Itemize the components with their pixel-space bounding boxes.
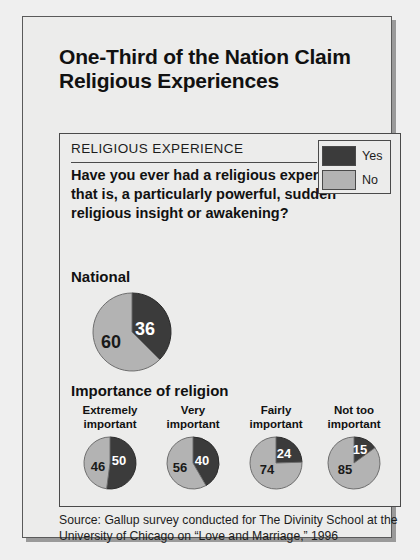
pie-label-very-important: Very important [151,404,235,431]
pie-value-fairly-no: 74 [260,463,275,478]
pie-chart-very-important: 40 56 [165,435,221,495]
pie-label-line1: Extremely [83,404,138,416]
legend-item-yes: Yes [322,144,390,167]
pie-group-extremely-important: Extremely important 50 46 [68,404,152,495]
pie-chart-extremely-important: 50 46 [82,435,138,495]
legend-swatch-no-icon [322,170,356,190]
pie-chart-fairly-important: 24 74 [248,435,304,495]
chart-legend: Yes No [318,140,391,194]
pie-label-line1: Not too [334,404,374,416]
pie-value-very-yes: 40 [195,454,209,469]
pie-label-line2: important [83,418,136,430]
question-panel: RELIGIOUS EXPERIENCE Have you ever had a… [59,133,401,507]
pie-value-extremely-no: 46 [91,460,105,475]
pie-value-extremely-yes: 50 [112,454,126,469]
pie-chart-national: 36 60 [90,290,174,374]
source-note: Source: Gallup survey conducted for The … [59,513,407,545]
pie-label-fairly-important: Fairly important [234,404,318,431]
pie-value-fairly-yes: 24 [277,447,292,462]
pie-label-line1: Fairly [261,404,292,416]
national-section-label: National [71,268,130,285]
pie-group-fairly-important: Fairly important 24 74 [234,404,318,495]
pie-value-not-too-yes: 15 [353,443,367,458]
legend-item-no: No [322,168,390,191]
importance-section-label: Importance of religion [71,382,229,399]
legend-label-no: No [362,173,378,187]
pie-value-national-no: 60 [101,332,121,352]
pie-label-line2: important [327,418,380,430]
legend-swatch-yes-icon [322,146,356,166]
heading-divider [71,162,317,163]
pie-chart-not-too-important: 15 85 [326,435,382,495]
panel-heading: RELIGIOUS EXPERIENCE [71,141,243,156]
infographic-page: One-Third of the Nation Claim Religious … [0,0,420,560]
legend-label-yes: Yes [362,149,382,163]
pie-label-line2: important [249,418,302,430]
page-title: One-Third of the Nation Claim Religious … [59,45,405,92]
pie-label-line1: Very [181,404,205,416]
infographic-card: One-Third of the Nation Claim Religious … [22,16,392,538]
pie-label-extremely-important: Extremely important [68,404,152,431]
pie-group-very-important: Very important 40 56 [151,404,235,495]
pie-value-not-too-no: 85 [338,463,352,478]
pie-label-not-too-important: Not too important [312,404,396,431]
pie-group-not-too-important: Not too important 15 85 [312,404,396,495]
pie-label-line2: important [166,418,219,430]
pie-value-national-yes: 36 [135,319,155,339]
pie-value-very-no: 56 [173,461,187,476]
